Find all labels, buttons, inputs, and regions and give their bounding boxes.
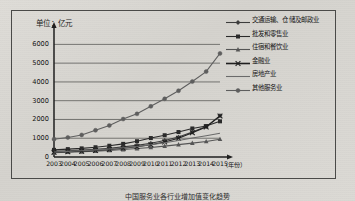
chart-canvas: 单位：亿元 0100020003000400050006000 20032004… — [12, 11, 335, 178]
y-axis-tick: 6000 — [23, 40, 49, 48]
legend-item[interactable]: 住宿和餐饮业 — [225, 44, 333, 54]
legend-label: 批发和零售业 — [251, 31, 289, 38]
legend-item[interactable]: 其他服务业 — [225, 85, 333, 95]
legend-marker-icon — [225, 59, 251, 68]
legend-item[interactable]: 房地产业 — [225, 71, 333, 81]
figure-caption: 中国服务业各行业增加值变化趋势 — [0, 191, 355, 201]
y-axis-tick: 3000 — [23, 97, 49, 105]
figure-frame: 单位：亿元 0100020003000400050006000 20032004… — [11, 10, 336, 179]
legend-label: 其他服务业 — [251, 85, 283, 92]
legend-label: 房地产业 — [251, 71, 276, 78]
legend-marker-icon — [225, 86, 251, 95]
x-axis-title: （年份） — [222, 160, 246, 169]
y-axis-tick: 2000 — [23, 115, 49, 123]
legend-marker-icon — [225, 72, 251, 81]
chart-legend: 交通运输、仓储及邮政业批发和零售业住宿和餐饮业金融业房地产业其他服务业 — [225, 17, 333, 98]
legend-label: 金融业 — [251, 58, 270, 65]
legend-item[interactable]: 批发和零售业 — [225, 31, 333, 41]
legend-label: 住宿和餐饮业 — [251, 44, 289, 51]
y-axis-tick: 5000 — [23, 59, 49, 67]
legend-item[interactable]: 交通运输、仓储及邮政业 — [225, 17, 333, 27]
legend-label: 交通运输、仓储及邮政业 — [251, 17, 319, 24]
legend-marker-icon — [225, 18, 251, 27]
legend-marker-icon — [225, 45, 251, 54]
y-axis-tick: 4000 — [23, 78, 49, 86]
legend-marker-icon — [225, 32, 251, 41]
y-axis-tick: 1000 — [23, 134, 49, 142]
legend-item[interactable]: 金融业 — [225, 58, 333, 68]
